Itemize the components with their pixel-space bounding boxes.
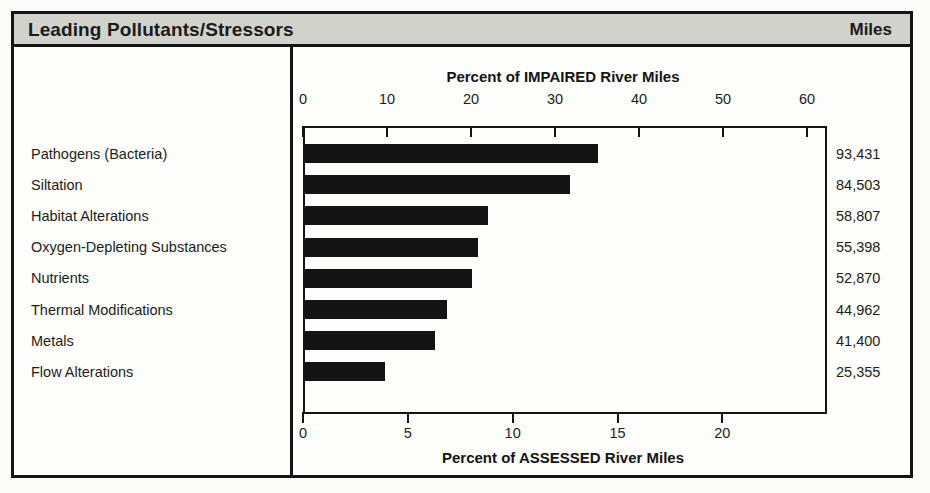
top-tick-label: 0 [299,92,307,107]
category-label: Pathogens (Bacteria) [31,147,167,162]
top-tick-label: 10 [379,92,395,107]
table-header-band: Leading Pollutants/Stressors Miles [14,14,910,47]
miles-column-header: Miles [849,21,896,38]
bar [303,362,385,381]
top-axis-title: Percent of IMPAIRED River Miles [303,69,823,84]
category-label: Flow Alterations [31,365,133,380]
bar [303,238,478,257]
bottom-tick-mark [407,412,409,423]
top-tick-label: 20 [463,92,479,107]
page-title: Leading Pollutants/Stressors [28,20,294,39]
bar [303,144,598,163]
category-label-column: Pathogens (Bacteria)SiltationHabitat Alt… [14,47,290,475]
bottom-tick-label: 10 [505,426,521,441]
bar [303,331,435,350]
category-label: Metals [31,334,74,349]
bar [303,175,570,194]
category-label: Nutrients [31,271,89,286]
miles-value: 55,398 [836,240,902,255]
bottom-axis-title: Percent of ASSESSED River Miles [303,450,823,465]
bar [303,206,488,225]
bottom-tick-label: 0 [299,426,307,441]
miles-value: 52,870 [836,271,902,286]
category-label: Thermal Modifications [31,303,173,318]
miles-value: 25,355 [836,365,902,380]
miles-value: 84,503 [836,178,902,193]
category-label: Habitat Alterations [31,209,149,224]
bottom-tick-label: 15 [609,426,625,441]
miles-value: 41,400 [836,334,902,349]
bottom-tick-mark [302,412,304,423]
top-tick-label: 60 [799,92,815,107]
category-label: Siltation [31,178,83,193]
bottom-tick-mark [721,412,723,423]
miles-value: 58,807 [836,209,902,224]
bar [303,269,472,288]
bottom-tick-mark [512,412,514,423]
top-tick-label: 50 [715,92,731,107]
miles-value: 93,431 [836,147,902,162]
top-tick-label: 40 [631,92,647,107]
pollutants-table-frame: Leading Pollutants/Stressors Miles Patho… [11,11,913,478]
category-label: Oxygen-Depleting Substances [31,240,227,255]
top-tick-label: 30 [547,92,563,107]
bar [303,300,447,319]
table-body: Pathogens (Bacteria)SiltationHabitat Alt… [14,47,910,475]
bar-chart: Percent of IMPAIRED River Miles 01020304… [293,47,910,475]
bottom-tick-mark [617,412,619,423]
bottom-tick-label: 5 [404,426,412,441]
miles-value-column: 93,43184,50358,80755,39852,87044,96241,4… [836,47,910,475]
bottom-tick-label: 20 [714,426,730,441]
miles-value: 44,962 [836,303,902,318]
